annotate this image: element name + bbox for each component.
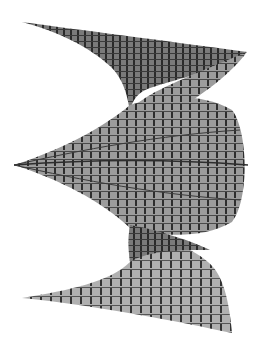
figure-canvas: 3D rendered twisted helicoidal surface m…: [0, 0, 267, 359]
helicoid-surface: [0, 0, 267, 359]
middle-bulge: [14, 97, 248, 234]
bottom-sheet: [22, 225, 232, 333]
